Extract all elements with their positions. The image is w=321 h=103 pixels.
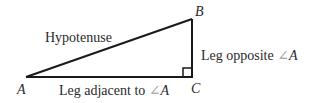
adjacent-leg-label: Leg adjacent to ∠A	[59, 83, 170, 98]
angle-icon: ∠	[277, 48, 289, 63]
vertex-label-c: C	[191, 81, 201, 96]
right-triangle-diagram: A B C Hypotenuse Leg opposite ∠A Leg adj…	[0, 0, 321, 103]
adjacent-leg-text: Leg adjacent to	[59, 83, 149, 98]
hypotenuse-line	[26, 19, 192, 77]
angle-icon: ∠	[149, 83, 161, 98]
angle-vertex-a: A	[160, 83, 170, 98]
hypotenuse-label: Hypotenuse	[45, 30, 112, 45]
opposite-leg-label: Leg opposite ∠A	[201, 48, 298, 63]
right-angle-marker	[183, 68, 192, 77]
opposite-leg-text: Leg opposite	[201, 48, 277, 63]
vertex-label-a: A	[16, 82, 26, 97]
vertex-label-b: B	[195, 4, 204, 19]
angle-vertex-a: A	[288, 48, 298, 63]
